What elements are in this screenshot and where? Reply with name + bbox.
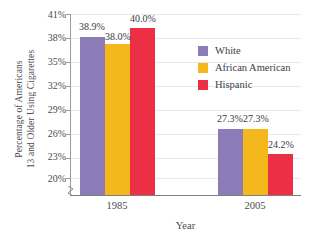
bar-1985-white: [80, 37, 105, 195]
y-tick-label-41: 41%: [32, 10, 66, 20]
y-tick-label-23: 23%: [32, 152, 66, 162]
axis-break-icon: [67, 186, 74, 197]
bar-2005-white: [218, 129, 243, 195]
legend-label-white: White: [215, 45, 241, 56]
y-tick-mark-23: [66, 158, 71, 159]
y-tick-label-32: 32%: [32, 81, 66, 91]
bar-label-1985-african-american: 38.0%: [93, 32, 143, 42]
gridline-41: [71, 14, 301, 15]
x-axis-title: Year: [70, 220, 301, 231]
y-tick-mark-35: [66, 62, 71, 63]
legend-swatch-white-icon: [198, 46, 208, 56]
legend-swatch-african-american-icon: [198, 63, 208, 73]
bar-label-2005-african-american: 27.3%: [231, 114, 281, 124]
legend-swatch-hispanic-icon: [198, 80, 208, 90]
y-tick-label-26: 26%: [32, 129, 66, 139]
y-tick-label-20: 20%: [32, 174, 66, 184]
x-tick-label-1985: 1985: [87, 200, 147, 211]
bar-label-1985-hispanic: 40.0%: [118, 14, 168, 24]
y-tick-mark-38: [66, 38, 71, 39]
bar-chart: Percentage of Americans 13 and Older Usi…: [0, 0, 328, 242]
x-tick-label-2005: 2005: [225, 200, 285, 211]
legend-label-hispanic: Hispanic: [215, 79, 252, 90]
x-axis-line: [70, 195, 301, 196]
bar-1985-african-american: [105, 44, 130, 195]
y-tick-mark-41: [66, 14, 71, 15]
bar-1985-hispanic: [130, 28, 155, 195]
y-axis-title-line-1: Percentage of Americans: [14, 14, 26, 204]
y-tick-label-35: 35%: [32, 57, 66, 67]
y-tick-mark-32: [66, 86, 71, 87]
bar-2005-hispanic: [268, 154, 293, 195]
legend-item-african-american: African American: [198, 59, 326, 76]
y-axis-line: [70, 14, 71, 196]
legend-label-african-american: African American: [215, 62, 291, 73]
y-tick-mark-29: [66, 110, 71, 111]
y-tick-mark-20: [66, 178, 71, 179]
y-tick-label-29: 29%: [32, 105, 66, 115]
legend-item-hispanic: Hispanic: [198, 76, 326, 93]
bar-2005-african-american: [243, 129, 268, 195]
bar-label-2005-hispanic: 24.2%: [256, 140, 306, 150]
legend: White African American Hispanic: [198, 42, 326, 93]
y-tick-label-38: 38%: [32, 33, 66, 43]
legend-item-white: White: [198, 42, 326, 59]
y-tick-mark-26: [66, 134, 71, 135]
